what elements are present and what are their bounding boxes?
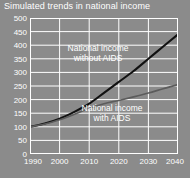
annotation-without-aids-line2: without AIDS	[58, 53, 138, 63]
plot-area	[30, 18, 178, 154]
x-tick-label: 2000	[51, 157, 69, 166]
y-tick-label: 500	[14, 14, 27, 23]
annotation-with-aids-line2: with AIDS	[70, 113, 154, 123]
plot-frame	[30, 18, 178, 154]
y-axis-tick-labels: 050100150200250300350400450500	[0, 18, 27, 154]
y-tick-label: 350	[14, 54, 27, 63]
y-tick-label: 200	[14, 95, 27, 104]
x-tick-label: 2010	[80, 157, 98, 166]
y-tick-label: 250	[14, 82, 27, 91]
x-tick-label: 2030	[139, 157, 157, 166]
x-tick-label: 2020	[110, 157, 128, 166]
y-tick-label: 450	[14, 27, 27, 36]
x-axis-tick-labels: 199020002010202020302040	[30, 157, 178, 171]
y-tick-label: 300	[14, 68, 27, 77]
x-tick-label: 1990	[24, 157, 42, 166]
annotation-without-aids-line1: National income	[58, 43, 138, 53]
x-tick-label: 2040	[166, 157, 184, 166]
y-tick-label: 150	[14, 109, 27, 118]
chart-title: Simulated trends in national income	[4, 1, 150, 11]
annotation-with-aids: National income with AIDS	[70, 103, 154, 123]
annotation-with-aids-line1: National income	[70, 103, 154, 113]
y-tick-label: 50	[18, 136, 27, 145]
annotation-without-aids: National income without AIDS	[58, 43, 138, 63]
y-tick-label: 100	[14, 122, 27, 131]
y-tick-label: 400	[14, 41, 27, 50]
chart-figure: Simulated trends in national income 0501…	[0, 0, 190, 178]
